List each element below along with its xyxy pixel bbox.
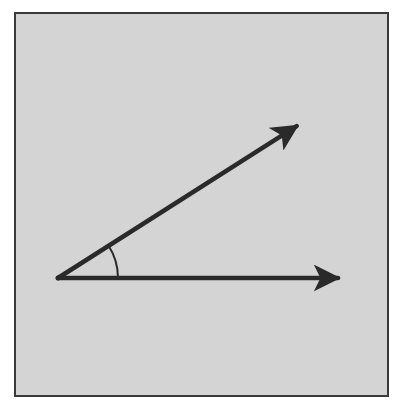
angle-diagram <box>0 0 403 407</box>
upper-ray-arrow <box>58 126 297 278</box>
angle-arc <box>109 246 118 278</box>
vertex-point <box>56 276 61 281</box>
